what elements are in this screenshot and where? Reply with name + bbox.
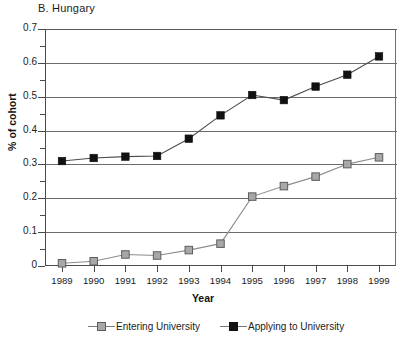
y-axis-tick — [38, 97, 45, 98]
y-axis-tick — [38, 164, 45, 165]
gridline — [46, 131, 397, 132]
chart-figure: B. Hungary % of cohort 00.10.20.30.40.50… — [0, 0, 406, 338]
gridline — [46, 164, 397, 165]
y-axis-tick-label: 0.3 — [5, 157, 37, 168]
legend-item-entering-university: Entering University — [88, 318, 200, 334]
x-axis-tick — [284, 266, 285, 272]
black-square-marker-icon — [229, 322, 238, 331]
gridline — [46, 97, 397, 98]
gridline — [46, 29, 397, 30]
y-axis-tick-label: 0.2 — [5, 191, 37, 202]
y-axis-tick-label: 0.6 — [5, 56, 37, 67]
x-axis-tick — [347, 266, 348, 272]
x-axis-title: Year — [0, 292, 406, 304]
gridline — [46, 63, 397, 64]
legend-label: Applying to University — [248, 321, 344, 332]
y-axis-tick — [38, 266, 45, 267]
gray-square-marker-icon — [97, 322, 106, 331]
y-axis-minor-tick — [40, 181, 45, 182]
y-axis-minor-tick — [40, 215, 45, 216]
y-axis-minor-tick — [40, 80, 45, 81]
y-axis-tick-label: 0.7 — [5, 22, 37, 33]
page-title: B. Hungary — [38, 2, 95, 14]
chart-legend: Entering University Applying to Universi… — [0, 318, 406, 336]
x-axis-tick — [157, 266, 158, 272]
gridline — [46, 198, 397, 199]
y-axis-minor-tick — [40, 148, 45, 149]
y-axis-minor-tick — [40, 249, 45, 250]
y-axis-tick — [38, 63, 45, 64]
x-axis-tick — [221, 266, 222, 272]
x-axis-tick — [62, 266, 63, 272]
y-axis-tick-label: 0.5 — [5, 90, 37, 101]
legend-label: Entering University — [116, 321, 200, 332]
legend-line-right-icon — [238, 326, 247, 327]
x-axis-tick — [189, 266, 190, 272]
y-axis-minor-tick — [40, 114, 45, 115]
y-axis-tick — [38, 198, 45, 199]
y-axis-tick-label: 0.4 — [5, 124, 37, 135]
y-axis-minor-tick — [40, 46, 45, 47]
legend-line-left-icon — [88, 326, 97, 327]
y-axis-tick — [38, 232, 45, 233]
y-axis-tick-label: 0 — [5, 259, 37, 270]
x-axis-tick — [379, 266, 380, 272]
plot-area — [45, 29, 396, 266]
legend-line-right-icon — [106, 326, 115, 327]
x-axis-tick — [94, 266, 95, 272]
y-axis-tick — [38, 131, 45, 132]
legend-item-applying-to-university: Applying to University — [220, 318, 344, 334]
gridline — [46, 232, 397, 233]
y-axis-tick-label: 0.1 — [5, 225, 37, 236]
y-axis-tick-labels: 00.10.20.30.40.50.60.7 — [0, 0, 37, 338]
x-axis-tick-label: 1999 — [357, 275, 401, 286]
x-axis-tick — [125, 266, 126, 272]
y-axis-tick — [38, 29, 45, 30]
legend-line-left-icon — [220, 326, 229, 327]
x-axis-tick — [316, 266, 317, 272]
x-axis-tick — [252, 266, 253, 272]
